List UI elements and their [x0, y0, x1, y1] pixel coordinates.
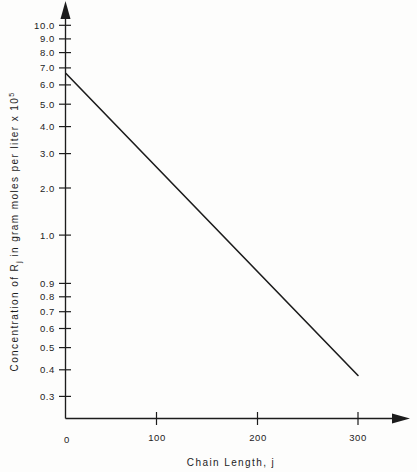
- y-tick-label: 7.0: [40, 62, 55, 73]
- chart-figure: 10.0 9.0 8.0 7.0 6.0 5.0 4.0 3.0 2.0 1.0…: [0, 0, 417, 472]
- x-tick-label: 100: [148, 432, 166, 443]
- y-tick-label: 10.0: [34, 20, 55, 31]
- y-tick-label: 2.0: [40, 183, 55, 194]
- x-tick-labels: 0 100 200 300: [64, 432, 367, 445]
- y-tick-label: 0.8: [40, 291, 55, 302]
- semilog-plot: 10.0 9.0 8.0 7.0 6.0 5.0 4.0 3.0 2.0 1.0…: [0, 0, 417, 472]
- svg-text:Concentration of Rj in gram mo: Concentration of Rj in gram moles per li…: [8, 93, 23, 372]
- y-tick-label: 4.0: [40, 121, 55, 132]
- y-tick-labels: 10.0 9.0 8.0 7.0 6.0 5.0 4.0 3.0 2.0 1.0…: [34, 20, 55, 402]
- x-tick-label: 300: [349, 432, 367, 443]
- y-tick-label: 0.9: [40, 278, 55, 289]
- y-tick-label: 0.4: [40, 364, 55, 375]
- y-tick-label: 5.0: [40, 99, 55, 110]
- x-tick-label: 0: [64, 434, 70, 445]
- y-axis-title-lead: Concentration of R: [9, 263, 20, 372]
- y-tick-label: 1.0: [40, 230, 55, 241]
- y-tick-label: 0.3: [40, 391, 55, 402]
- x-axis-title: Chain Length, j: [187, 457, 275, 468]
- x-tick-label: 200: [249, 432, 267, 443]
- y-axis-title-superscript: 5: [8, 93, 15, 97]
- y-tick-label: 0.7: [40, 306, 55, 317]
- data-series-line: [66, 74, 358, 376]
- y-tick-label: 8.0: [40, 47, 55, 58]
- y-axis-arrowhead: [61, 1, 71, 19]
- y-tick-label: 6.0: [40, 79, 55, 90]
- y-tick-label: 9.0: [40, 33, 55, 44]
- y-tick-label: 0.6: [40, 323, 55, 334]
- y-tick-label: 3.0: [40, 148, 55, 159]
- y-axis-title-mid: in gram moles per liter x 10: [9, 97, 20, 261]
- y-tick-label: 0.5: [40, 342, 55, 353]
- y-axis-title: Concentration of Rj in gram moles per li…: [8, 93, 23, 372]
- x-axis-arrowhead: [392, 414, 410, 424]
